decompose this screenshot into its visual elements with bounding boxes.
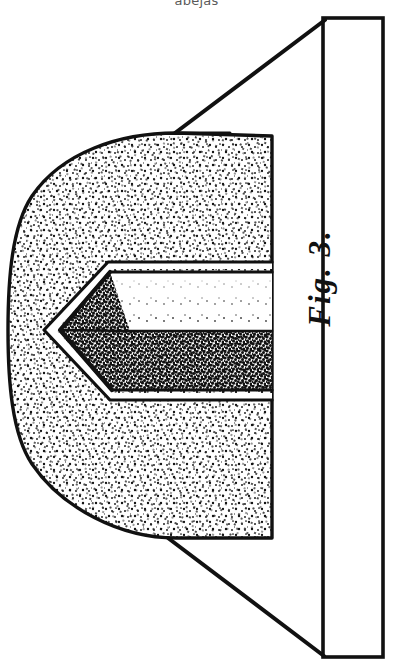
vertical-bar-outline [323, 18, 383, 657]
vertical-bar [323, 18, 383, 657]
groove-crease-line [60, 330, 272, 331]
figure-page: abejas [0, 0, 393, 670]
lower-perspective-line [168, 538, 324, 656]
engraving-plate [0, 0, 393, 670]
upper-perspective-line [175, 20, 325, 133]
